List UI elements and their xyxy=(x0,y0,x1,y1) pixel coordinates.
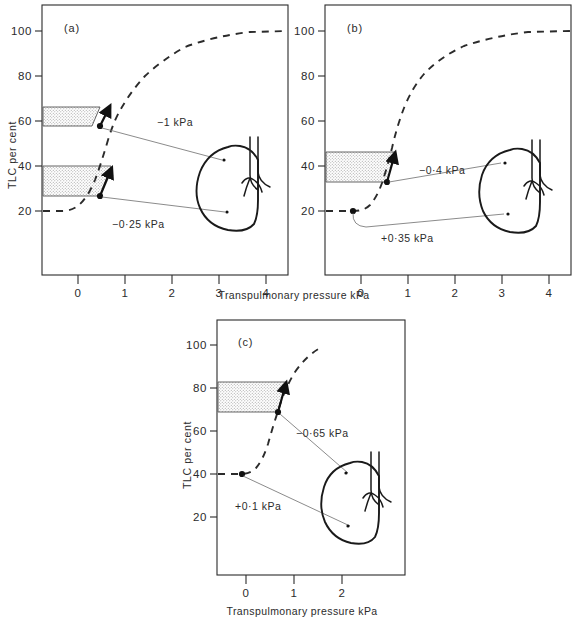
panel-b-upper-annotation: −0·4 kPa xyxy=(419,164,465,176)
panel-a-label: (a) xyxy=(64,22,80,34)
panel-c-frame xyxy=(217,320,405,575)
panel-a-ytick-60: 60 xyxy=(18,115,32,127)
panel-b-frame xyxy=(325,5,571,275)
panel-c-xtick-2: 2 xyxy=(339,587,346,599)
panel-a-ytick-20: 20 xyxy=(18,205,32,217)
panel-b-ytick-40: 40 xyxy=(301,160,315,172)
panel-c-xtick-1: 1 xyxy=(291,587,298,599)
panel-c-ytick-80: 80 xyxy=(193,382,207,394)
panel-c-upper-annotation: −0·65 kPa xyxy=(296,427,349,439)
panel-a-upper-annotation: −1 kPa xyxy=(157,116,193,128)
panel-c-ytick-40: 40 xyxy=(193,468,207,480)
panel-b-ytick-80: 80 xyxy=(301,70,315,82)
panel-c-x-axis-title: Transpulmonary pressure kPa xyxy=(226,605,377,617)
top-row-x-axis-title: Transpulmonary pressure kPa xyxy=(218,289,369,301)
panel-b-ytick-60: 60 xyxy=(301,115,315,127)
panel-c: 100 80 60 40 20 0 1 2 TLC per cent Trans… xyxy=(178,310,438,622)
panel-a-lower-point xyxy=(97,193,103,199)
panel-a-ytick-80: 80 xyxy=(18,70,32,82)
panel-c-ytick-60: 60 xyxy=(193,425,207,437)
panel-c-xtick-0: 0 xyxy=(243,587,250,599)
panel-b-ytick-20: 20 xyxy=(301,205,315,217)
panel-a-lung-diagram xyxy=(197,137,271,231)
panel-b-lower-annotation: +0·35 kPa xyxy=(381,232,434,244)
panel-b-ytick-100: 100 xyxy=(294,25,315,37)
panel-a-frame xyxy=(42,5,288,275)
panel-a: 100 80 60 40 20 0 1 2 3 4 TLC per cent (… xyxy=(0,0,300,312)
panel-c-y-axis-title: TLC per cent xyxy=(181,421,193,489)
panel-a-lower-annotation: −0·25 kPa xyxy=(112,218,165,230)
panel-a-lower-leader xyxy=(102,197,225,212)
top-row-x-axis-title-layer: Transpulmonary pressure kPa xyxy=(0,285,588,311)
panel-b-upper-band xyxy=(326,152,395,182)
panel-a-upper-band xyxy=(43,107,100,126)
panel-c-ytick-20: 20 xyxy=(193,511,207,523)
panel-a-ytick-100: 100 xyxy=(11,25,32,37)
panel-c-upper-leader xyxy=(280,414,348,473)
panel-a-y-axis-title: TLC per cent xyxy=(6,121,18,189)
panel-c-lower-annotation: +0·1 kPa xyxy=(235,500,281,512)
panel-c-label: (c) xyxy=(238,336,253,348)
panel-b-lower-leader xyxy=(353,213,504,227)
panel-b-lung-diagram xyxy=(479,140,552,233)
panel-c-ytick-100: 100 xyxy=(186,339,207,351)
panel-c-upper-band xyxy=(218,382,286,412)
panel-c-x-axis: 0 1 2 xyxy=(243,575,346,599)
panel-b: 100 80 60 40 20 0 1 2 3 4 (b) −0·4 kPa +… xyxy=(288,0,588,312)
panel-b-y-axis: 100 80 60 40 20 xyxy=(294,25,325,217)
panel-a-upper-leader xyxy=(102,128,222,160)
panel-b-label: (b) xyxy=(347,22,363,34)
panel-c-lung-diagram xyxy=(321,452,391,544)
figure-root: 100 80 60 40 20 0 1 2 3 4 TLC per cent (… xyxy=(0,0,588,622)
panel-a-ytick-40: 40 xyxy=(18,160,32,172)
